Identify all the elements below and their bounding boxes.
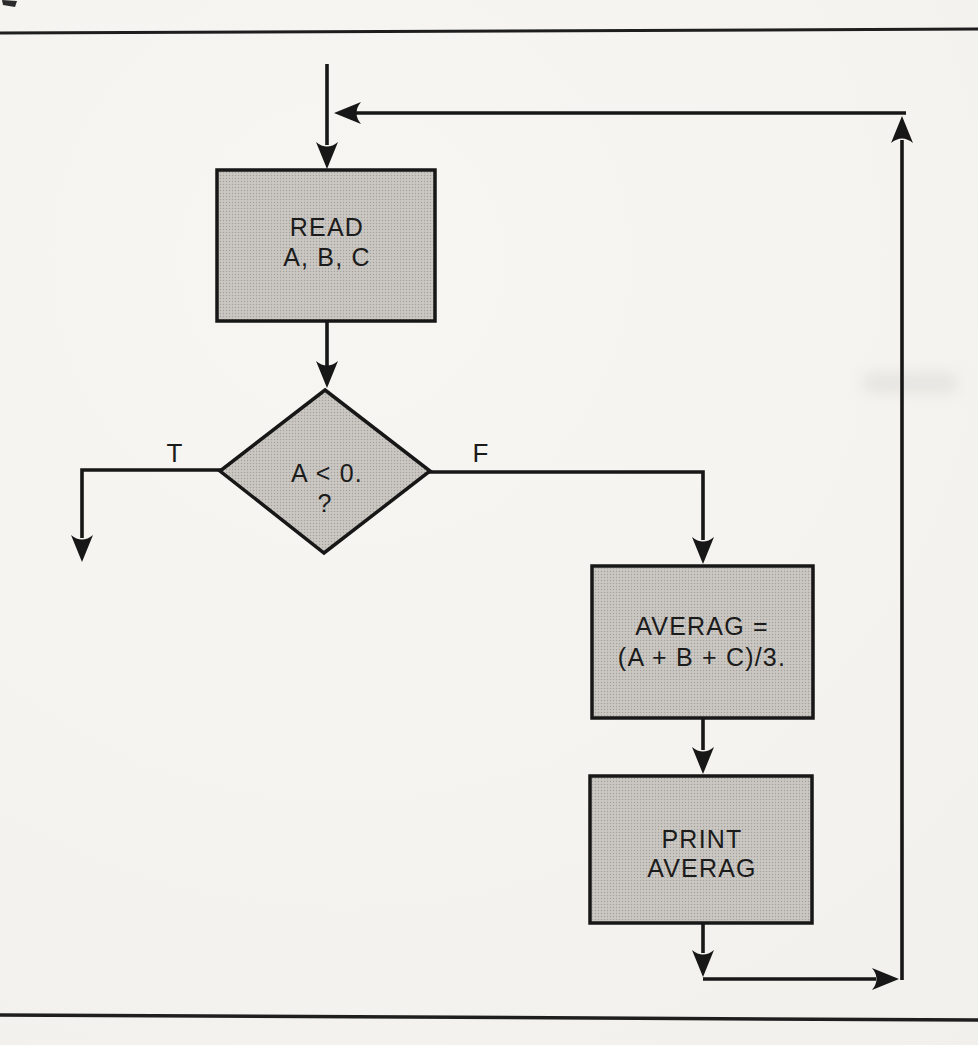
connector-true-branch — [82, 470, 221, 538]
flowchart-canvas: READ A, B, C A < 0. ? T F AVERAG = (A + … — [0, 0, 978, 1045]
false-branch-label: F — [473, 438, 490, 468]
arrowhead-loop-top — [891, 116, 913, 143]
true-branch-label: T — [167, 438, 184, 468]
assign-box-line2: (A + B + C)/3. — [618, 643, 786, 671]
decision-line1: A < 0. — [291, 459, 363, 487]
arrowhead-into-assign — [692, 537, 714, 564]
scan-speck — [2, 0, 17, 7]
bottom-rule — [0, 1015, 978, 1020]
print-box-line2: AVERAG — [647, 854, 757, 882]
flow-nodes — [217, 170, 813, 923]
read-box-line1: READ — [290, 213, 364, 241]
scanned-page: READ A, B, C A < 0. ? T F AVERAG = (A + … — [0, 0, 978, 1045]
arrowhead-bottom-right — [872, 968, 899, 990]
read-box-line2: A, B, C — [283, 243, 371, 271]
assign-box — [592, 566, 813, 718]
arrowhead-into-print — [692, 747, 714, 774]
arrowhead-into-read — [316, 142, 338, 169]
arrowhead-true-exit — [71, 535, 93, 562]
arrowhead-print-bottom — [692, 950, 714, 977]
print-box-line1: PRINT — [662, 825, 743, 853]
decision-line2: ? — [317, 489, 332, 517]
assign-box-line1: AVERAG = — [635, 612, 769, 640]
top-rule — [0, 29, 978, 33]
connector-false-branch — [429, 472, 703, 540]
